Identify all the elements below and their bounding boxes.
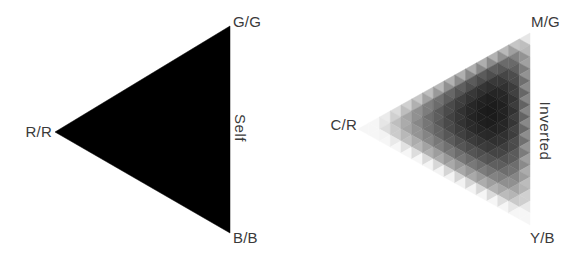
- inverted-triangle-mosaic: [358, 33, 530, 225]
- corner-label-bb: B/B: [233, 230, 258, 245]
- corner-label-gg: G/G: [233, 14, 261, 29]
- figure-canvas: G/G R/R B/B Self M/G C/R Y/B Inverted: [0, 0, 583, 263]
- corner-label-cr: C/R: [331, 117, 357, 132]
- figure-svg: [0, 0, 583, 263]
- corner-label-yb: Y/B: [530, 230, 555, 245]
- side-label-inverted: Inverted: [537, 99, 553, 163]
- corner-label-mg: M/G: [531, 14, 560, 29]
- side-label-self: Self: [232, 111, 248, 145]
- corner-label-rr: R/R: [26, 124, 52, 139]
- self-triangle: [55, 26, 230, 233]
